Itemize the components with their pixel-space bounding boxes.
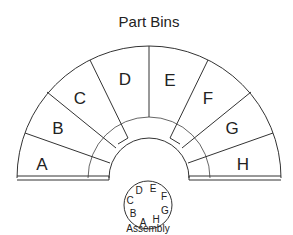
bin-label-b: B [52,119,63,138]
slot-label-d: D [135,185,142,196]
bin-label-f: F [203,89,213,108]
bin-label-g: G [225,119,238,138]
bin-label-h: H [237,155,249,174]
slot-label-e: E [150,183,157,194]
inner-arc [109,138,189,178]
divider-c-d-foot [118,138,128,144]
assembly-caption: Assembly [126,223,169,234]
part-bins-diagram: Part Bins A B C D E F G H D E F G H A B … [0,0,293,235]
slot-label-g: G [161,205,169,216]
bin-label-c: C [74,89,86,108]
bin-label-a: A [36,155,48,174]
diagram-title: Part Bins [119,13,180,30]
slot-label-f: F [161,191,167,202]
divider-e-f-foot [170,138,180,144]
slot-label-b: B [130,208,137,219]
slot-label-c: C [126,195,133,206]
bin-label-d: D [119,70,131,89]
bin-label-e: E [164,71,175,90]
middle-arc [88,117,210,178]
divider-f-g [182,92,251,148]
